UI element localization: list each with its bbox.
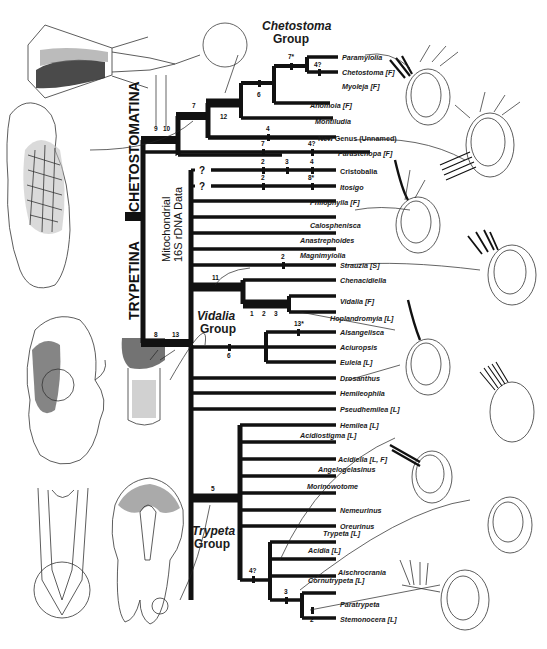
svg-text:7: 7 (261, 140, 265, 147)
svg-text:7: 7 (192, 102, 196, 109)
svg-text:1: 1 (250, 310, 254, 317)
svg-text:13: 13 (172, 331, 180, 338)
taxon-paratrypeta: Paratrypeta (340, 600, 380, 609)
svg-text:13*: 13* (294, 320, 304, 327)
head-illustration-2 (440, 92, 520, 180)
taxon-chetostoma: Chetostoma [F] (342, 68, 395, 77)
vidalia-group-subtitle: Group (200, 322, 236, 336)
chetostoma-group-title: Chetostoma (262, 19, 332, 33)
aedeagus-glans-illustration (122, 338, 165, 425)
svg-text:?: ? (199, 181, 205, 192)
svg-text:2: 2 (310, 616, 314, 623)
taxon-philophylla: Philophylla [F] (310, 198, 360, 207)
trypetina-label: TRYPETINA (126, 241, 142, 320)
svg-text:11: 11 (212, 274, 219, 281)
ovipositor-sheath-illustration (28, 25, 200, 98)
taxon-pseudhemilea: Pseudhemilea [L] (340, 405, 400, 414)
svg-text:2: 2 (261, 158, 265, 165)
svg-text:2: 2 (262, 310, 266, 317)
taxon-paramyiolia: Paramyiolia (342, 53, 382, 62)
svg-text:5: 5 (211, 485, 215, 492)
head-illustration-7 (390, 445, 452, 503)
head-illustration-6 (480, 362, 534, 442)
taxon-anastrephoides: Anastrephoides (299, 236, 354, 245)
taxon-hemilea: Hemilea [L] (340, 421, 379, 430)
leader-lines (90, 23, 480, 610)
svg-text:3: 3 (274, 310, 278, 317)
taxon-morinowotome: Morinowotome (307, 482, 358, 491)
head-illustration-4 (468, 230, 536, 305)
taxon-euleia: Euleia [L] (340, 358, 373, 367)
svg-text:4: 4 (266, 125, 270, 132)
taxon-stemonocera: Stemonocera [L] (340, 615, 397, 624)
svg-text:2: 2 (261, 174, 265, 181)
taxon-strauzia: Strauzia [S] (340, 261, 380, 270)
taxon-calosphenisca: Calosphenisca (310, 221, 361, 230)
svg-text:?: ? (199, 165, 205, 176)
svg-text:3: 3 (285, 158, 289, 165)
taxon-acidia: Acidia [L] (307, 546, 341, 555)
taxon-hemileophila: Hemileophila (340, 389, 385, 398)
mitochondrial-data-label-2: 16S rDNA Data (172, 186, 184, 262)
mitochondrial-data-label: Mitochondrial (160, 197, 172, 262)
taxon-chenacidiella: Chenacidiella (340, 276, 386, 285)
svg-text:8: 8 (154, 331, 158, 338)
taxon-alsangelisca: Alsangelisca (339, 328, 384, 337)
head-illustration-3 (395, 160, 440, 253)
svg-text:4: 4 (310, 158, 314, 165)
epandrium-illustration (27, 317, 106, 464)
root-node (125, 212, 143, 221)
svg-text:12: 12 (220, 113, 228, 120)
svg-text:3: 3 (284, 588, 288, 595)
taxon-cristobalia: Cristobalia (340, 167, 378, 176)
aculeus-illustration (34, 488, 90, 618)
head-illustration-1 (390, 45, 458, 125)
taxon-drosanthus: Drosanthus (340, 374, 380, 383)
taxon-nemeurinus: Nemeurinus (340, 506, 382, 515)
chetostoma-group-subtitle: Group (273, 32, 309, 46)
trypeta-group-title: Trypeta (192, 524, 235, 538)
svg-text:6: 6 (227, 352, 231, 359)
head-illustration-5 (406, 300, 450, 395)
taxon-anomoia: Anomoia [F] (309, 101, 353, 110)
vidalia-group-title: Vidalia (197, 309, 236, 323)
taxon-acidiostigma: Acidiostigma [L] (299, 431, 357, 440)
head-illustration-8 (488, 497, 532, 553)
surstyli-illustration (112, 478, 183, 624)
svg-text:4?: 4? (249, 567, 257, 574)
taxon-myoleja: Myoleja [F] (342, 82, 380, 91)
svg-text:2: 2 (281, 253, 285, 260)
head-illustration-9 (400, 560, 489, 630)
taxon-angelogelasinus: Angelogelasinus (317, 465, 376, 474)
male-terminalia-illustration (7, 103, 70, 288)
taxon-montiludia: Montiludia (315, 117, 351, 126)
phylogeny-figure: 9 10 7 12 6 7* 4? 4 7 4? 2 3 4 2 8* 8 13… (0, 0, 547, 649)
svg-text:6: 6 (257, 91, 261, 98)
taxon-parastenopa: Parastenopa [F] (338, 149, 393, 158)
svg-text:4?: 4? (314, 61, 322, 68)
taxon-new-genus: New Genus (Unnamed) (318, 134, 397, 143)
svg-text:8*: 8* (308, 174, 315, 181)
taxon-acidiella: Acidiella [L, F] (337, 455, 388, 464)
svg-text:10: 10 (163, 125, 171, 132)
taxon-magnimyiolia: Magnimyiolia (300, 251, 346, 260)
taxon-aciuropsis: Aciuropsis (339, 343, 377, 352)
taxon-trypeta: Trypeta [L] (323, 529, 361, 538)
svg-text:7*: 7* (288, 53, 295, 60)
taxon-hoplandromyia: Hoplandromyia [L] (330, 314, 394, 323)
taxon-itosigo: Itosigo (340, 183, 364, 192)
svg-text:4?: 4? (308, 140, 316, 147)
taxon-vidalia: Vidalia [F] (340, 297, 375, 306)
